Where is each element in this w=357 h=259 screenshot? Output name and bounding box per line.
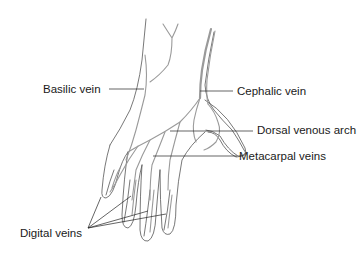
veins (110, 24, 220, 232)
label-digital-veins: Digital veins (20, 228, 82, 240)
label-metacarpal-veins: Metacarpal veins (239, 151, 326, 163)
digital-leaders (88, 196, 166, 228)
label-dorsal-venous-arch: Dorsal venous arch (257, 125, 356, 137)
hand-outline (102, 19, 246, 241)
hand-vein-diagram: Basilic vein Cephalic vein Dorsal venous… (0, 0, 357, 259)
label-basilic-vein: Basilic vein (43, 84, 101, 96)
label-cephalic-vein: Cephalic vein (237, 86, 306, 98)
